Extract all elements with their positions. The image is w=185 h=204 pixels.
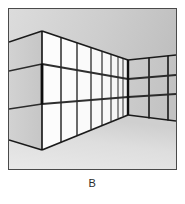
near-side-wall [9,31,42,150]
figure-caption: B [0,176,185,190]
figure-frame [8,8,177,170]
illustration-page: B [0,0,185,204]
back-wall [128,55,176,121]
perspective-scene [9,9,176,169]
